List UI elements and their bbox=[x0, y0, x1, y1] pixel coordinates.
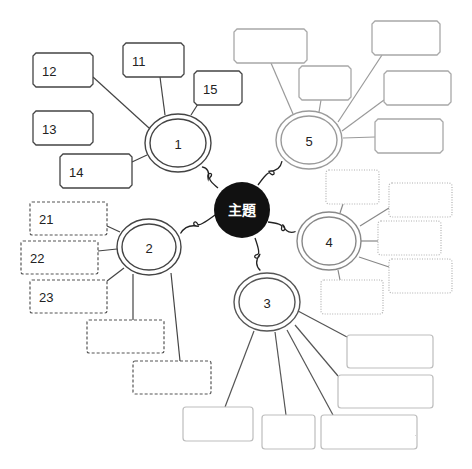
subtopic-box-2-3[interactable]: 23 bbox=[30, 280, 107, 313]
subtopic-label: 14 bbox=[69, 165, 83, 180]
subtopic-box-outline[interactable] bbox=[321, 415, 417, 449]
subtopic-box-5-4[interactable] bbox=[384, 71, 451, 105]
subtopic-box-outline[interactable] bbox=[133, 361, 211, 394]
subtopic-box-1-5[interactable]: 15 bbox=[194, 71, 242, 105]
subtopic-box-outline[interactable] bbox=[183, 407, 253, 441]
subtopic-box-4-4[interactable] bbox=[389, 259, 452, 293]
subtopic-box-3-1[interactable] bbox=[347, 335, 433, 368]
subtopic-box-outline[interactable] bbox=[326, 170, 379, 204]
subtopic-box-outline[interactable] bbox=[372, 21, 440, 55]
subtopic-box-outline[interactable] bbox=[321, 280, 383, 314]
subtopic-label: 12 bbox=[42, 64, 56, 79]
subtopic-line bbox=[171, 273, 180, 361]
branch-connector-4 bbox=[268, 222, 296, 232]
subtopic-box-2-1[interactable]: 21 bbox=[30, 202, 107, 235]
branch-node-5[interactable]: 5 bbox=[276, 111, 342, 169]
branch-node-label: 2 bbox=[145, 241, 152, 256]
branch-node-label: 1 bbox=[174, 137, 181, 152]
subtopic-label: 22 bbox=[30, 251, 44, 266]
branch-node-3[interactable]: 3 bbox=[234, 273, 300, 331]
subtopic-box-3-5[interactable] bbox=[183, 407, 253, 441]
subtopic-line bbox=[343, 137, 375, 138]
subtopic-line bbox=[271, 63, 293, 114]
subtopic-box-4-1[interactable] bbox=[326, 170, 379, 204]
subtopic-line bbox=[132, 155, 147, 162]
subtopic-label: 21 bbox=[39, 212, 53, 227]
subtopic-label: 23 bbox=[39, 290, 53, 305]
subtopic-box-5-5[interactable] bbox=[375, 119, 443, 153]
subtopic-box-outline[interactable] bbox=[378, 221, 441, 255]
subtopic-box-4-5[interactable] bbox=[321, 280, 383, 314]
subtopic-box-5-3[interactable] bbox=[372, 21, 440, 55]
subtopic-box-outline[interactable] bbox=[194, 71, 242, 105]
branch-connector-3 bbox=[255, 238, 261, 271]
branch-node-4[interactable]: 4 bbox=[297, 212, 361, 270]
subtopic-box-2-2[interactable]: 22 bbox=[21, 241, 98, 274]
branch-node-label: 4 bbox=[325, 235, 332, 250]
subtopic-label: 15 bbox=[203, 82, 217, 97]
subtopic-box-outline[interactable] bbox=[389, 259, 452, 293]
branch-connector-2 bbox=[180, 215, 215, 233]
branch-node-label: 3 bbox=[263, 296, 270, 311]
subtopic-box-outline[interactable] bbox=[347, 335, 433, 368]
subtopic-box-outline[interactable] bbox=[262, 415, 315, 449]
subtopic-box-1-2[interactable]: 12 bbox=[33, 53, 93, 87]
subtopic-line bbox=[107, 268, 124, 281]
subtopic-box-outline[interactable] bbox=[338, 375, 433, 408]
subtopic-line bbox=[298, 311, 347, 337]
subtopic-box-5-1[interactable] bbox=[234, 29, 307, 63]
branch-connector-5 bbox=[258, 161, 282, 185]
subtopic-box-outline[interactable] bbox=[234, 29, 307, 63]
subtopic-line bbox=[225, 331, 254, 407]
subtopic-box-outline[interactable] bbox=[375, 119, 443, 153]
subtopic-label: 13 bbox=[42, 122, 56, 137]
subtopic-box-4-2[interactable] bbox=[389, 183, 452, 217]
subtopic-box-3-2[interactable] bbox=[338, 375, 433, 408]
center-topic-label: 主題 bbox=[228, 202, 257, 218]
subtopic-line bbox=[160, 77, 165, 115]
subtopic-line bbox=[98, 249, 117, 251]
subtopic-box-1-1[interactable]: 11 bbox=[123, 43, 184, 77]
subtopic-box-3-3[interactable] bbox=[321, 415, 417, 449]
subtopic-line bbox=[338, 270, 340, 280]
subtopic-box-3-4[interactable] bbox=[262, 415, 315, 449]
subtopic-line bbox=[340, 204, 343, 213]
subtopic-box-outline[interactable] bbox=[87, 320, 164, 353]
subtopic-box-4-3[interactable] bbox=[378, 221, 441, 255]
subtopic-line bbox=[295, 325, 338, 376]
subtopic-box-1-3[interactable]: 13 bbox=[33, 111, 93, 145]
subtopic-line bbox=[319, 100, 321, 112]
center-topic[interactable]: 主題 bbox=[214, 182, 270, 238]
branch-node-2[interactable]: 2 bbox=[117, 219, 181, 275]
subtopic-line bbox=[275, 332, 286, 415]
branch-connector-1 bbox=[202, 167, 218, 188]
subtopic-box-5-2[interactable] bbox=[299, 66, 351, 100]
branch-node-label: 5 bbox=[305, 134, 312, 149]
branch-node-1[interactable]: 1 bbox=[145, 114, 211, 172]
subtopic-box-outline[interactable] bbox=[389, 183, 452, 217]
subtopic-line bbox=[359, 257, 389, 267]
subtopic-box-2-4[interactable] bbox=[87, 320, 164, 353]
subtopic-box-outline[interactable] bbox=[299, 66, 351, 100]
subtopic-box-outline[interactable] bbox=[384, 71, 451, 105]
subtopic-label: 11 bbox=[132, 54, 146, 69]
subtopic-box-1-4[interactable]: 14 bbox=[60, 154, 132, 188]
mind-map-canvas: 1112131415212223 15243 主題 bbox=[0, 0, 472, 469]
subtopic-line bbox=[107, 226, 120, 232]
subtopic-box-2-5[interactable] bbox=[133, 361, 211, 394]
subtopic-line bbox=[93, 77, 149, 128]
